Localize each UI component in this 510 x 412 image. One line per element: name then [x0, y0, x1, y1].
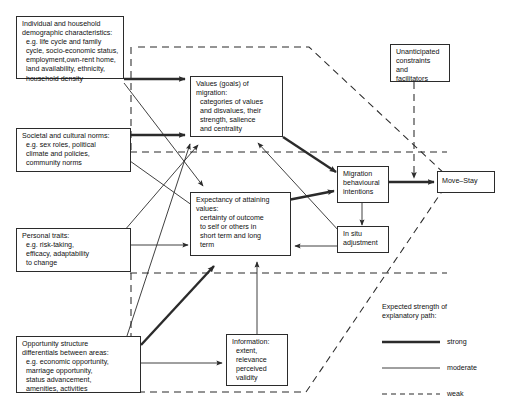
legend-lines-group [382, 342, 440, 394]
weak-path-outer-lower [138, 184, 447, 392]
legend-label-weak: weak [447, 390, 464, 398]
node-values-goals[interactable]: Values (goals) of migration: categories … [190, 76, 283, 137]
legend-title: Expected strength of explanatory path: [382, 303, 447, 321]
node-migration-intentions[interactable]: Migration behavioural intentions [337, 166, 389, 203]
node-expectancy[interactable]: Expectancy of attaining values: certaint… [190, 192, 291, 256]
node-in-situ-adjustment[interactable]: In situ adjustment [337, 226, 389, 253]
legend-label-strong: strong [447, 338, 467, 346]
node-information[interactable]: Information: extent, relevance perceived… [226, 334, 288, 386]
node-unanticipated-constraints[interactable]: Unanticipated constraints and facilitato… [390, 44, 450, 82]
path-personal-to-values [124, 145, 198, 231]
legend-label-moderate: moderate [447, 364, 477, 372]
node-opportunity-structure[interactable]: Opportunity structure differentials betw… [16, 336, 141, 393]
migration-decision-diagram: Individual and household demographic cha… [0, 0, 510, 412]
node-societal-cultural-norms[interactable]: Societal and cultural norms: e.g. sex ro… [16, 128, 131, 172]
path-expectancy-to-intentions [288, 191, 334, 200]
node-personal-traits[interactable]: Personal traits: e.g. risk-taking, effic… [16, 228, 131, 272]
path-opportunity-to-expectancy [141, 266, 214, 345]
path-opportunity-to-values [124, 144, 190, 345]
node-move-stay[interactable]: Move–Stay [437, 171, 495, 193]
node-individual-household[interactable]: Individual and household demographic cha… [16, 16, 124, 79]
path-values-to-intentions [283, 137, 336, 172]
